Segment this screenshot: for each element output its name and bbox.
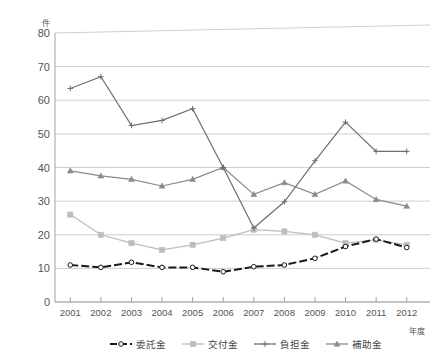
data-point-marker (190, 242, 195, 247)
data-point-marker (159, 247, 164, 252)
legend-label: 負担金 (280, 339, 310, 350)
y-tick-label: 70 (38, 61, 50, 73)
series-line (70, 77, 406, 228)
data-point-marker (67, 86, 73, 92)
data-point-marker (281, 180, 287, 185)
data-point-marker (119, 342, 124, 347)
gridlines (55, 25, 430, 302)
x-tick-label: 2011 (366, 307, 386, 318)
data-point-marker (343, 178, 349, 183)
data-point-marker (221, 236, 226, 241)
x-tick-label: 2005 (182, 307, 203, 318)
data-point-marker (404, 149, 410, 155)
legend-item-補助金[interactable]: 補助金 (326, 339, 382, 350)
data-point-marker (282, 263, 287, 268)
data-point-marker (282, 229, 287, 234)
legend-item-負担金[interactable]: 負担金 (254, 339, 310, 350)
x-tick-label: 2008 (274, 307, 295, 318)
x-axis-title: 年度 (409, 326, 425, 336)
y-tick-label: 60 (38, 94, 50, 106)
legend-label: 交付金 (208, 339, 238, 350)
series-補助金 (67, 165, 409, 209)
data-point-marker (190, 265, 195, 270)
data-point-marker (68, 263, 73, 268)
data-point-marker (98, 232, 103, 237)
data-point-marker (404, 245, 409, 250)
x-tick-label: 2004 (151, 307, 172, 318)
x-tick-label: 2006 (213, 307, 234, 318)
x-tick-label: 2002 (90, 307, 111, 318)
y-axis-unit-label: 件 (42, 18, 50, 28)
x-tick-label: 2010 (335, 307, 356, 318)
y-axis-tick-labels: 01020304050607080 (38, 27, 50, 308)
y-tick-label: 10 (38, 262, 50, 274)
legend-item-委託金[interactable]: 委託金 (110, 339, 166, 350)
series-line (70, 168, 406, 207)
x-tick-label: 2007 (243, 307, 264, 318)
data-point-marker (190, 341, 195, 346)
data-point-marker (313, 256, 318, 261)
legend-label: 補助金 (352, 339, 382, 350)
data-point-marker (373, 196, 379, 201)
series-line (70, 239, 406, 272)
data-point-marker (159, 118, 165, 124)
y-tick-label: 40 (38, 162, 50, 174)
data-point-marker (160, 265, 165, 270)
x-tick-label: 2001 (60, 307, 81, 318)
y-tick-label: 20 (38, 229, 50, 241)
data-point-marker (190, 106, 196, 112)
gridline (55, 25, 430, 33)
x-tick-label: 2009 (304, 307, 325, 318)
x-tick-label: 2012 (396, 307, 417, 318)
data-point-marker (129, 260, 134, 265)
data-point-marker (99, 265, 104, 270)
y-tick-label: 30 (38, 195, 50, 207)
data-point-marker (374, 237, 379, 242)
data-point-marker (129, 123, 135, 129)
y-tick-label: 50 (38, 128, 50, 140)
y-tick-label: 80 (38, 27, 50, 39)
data-series-layer (67, 74, 409, 274)
series-交付金 (68, 212, 410, 253)
data-point-marker (68, 212, 73, 217)
chart-legend: 委託金交付金負担金補助金 (110, 339, 382, 350)
data-point-marker (67, 168, 73, 173)
y-tick-label: 0 (44, 296, 50, 308)
line-chart: 01020304050607080 2001200220032004200520… (0, 0, 435, 360)
legend-item-交付金[interactable]: 交付金 (182, 339, 238, 350)
legend-label: 委託金 (136, 339, 166, 350)
data-point-marker (343, 244, 348, 249)
data-point-marker (312, 232, 317, 237)
data-point-marker (221, 269, 226, 274)
data-point-marker (251, 264, 256, 269)
series-負担金 (67, 74, 409, 231)
data-point-marker (262, 341, 268, 347)
chart-canvas: 01020304050607080 2001200220032004200520… (0, 0, 435, 360)
x-tick-label: 2003 (121, 307, 142, 318)
x-axis-tick-labels: 2001200220032004200520062007200820092010… (60, 297, 418, 318)
data-point-marker (129, 241, 134, 246)
